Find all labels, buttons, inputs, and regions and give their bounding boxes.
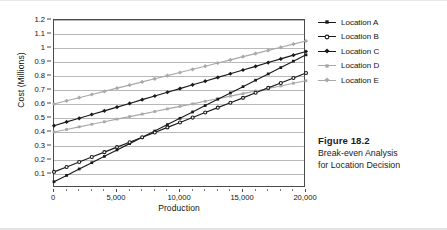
open-circle-marker: [325, 35, 329, 39]
open-circle-marker: [166, 126, 169, 129]
x-tick-label: 5,000: [106, 193, 125, 202]
y-tick-label: 0.5: [34, 113, 45, 122]
filled-square-marker: [166, 108, 169, 111]
x-tick-mark-minor: [229, 189, 230, 191]
legend-marker: [318, 16, 336, 28]
filled-diamond-marker: [115, 86, 119, 90]
filled-diamond-marker: [228, 72, 232, 76]
x-tick-label: 15,000: [230, 193, 253, 202]
filled-square-marker: [254, 79, 257, 82]
legend-label: Location C: [341, 47, 379, 56]
filled-diamond-marker: [241, 55, 245, 59]
open-circle-marker: [254, 91, 257, 94]
x-tick-mark-minor: [204, 189, 205, 191]
y-tick-label: 0.2: [34, 155, 45, 164]
filled-diamond-marker: [153, 94, 157, 98]
x-tick-mark-minor: [292, 189, 293, 191]
x-tick-mark-minor: [66, 189, 67, 191]
filled-square-marker: [78, 125, 81, 128]
filled-diamond-marker: [228, 58, 232, 62]
legend-item-location-a[interactable]: Location A: [318, 15, 442, 30]
legend-label: Location A: [341, 18, 378, 27]
legend-swatch: [318, 16, 336, 28]
y-tick-mark: [47, 173, 51, 174]
open-circle-marker: [90, 156, 93, 159]
y-tick-label: 0.1: [34, 169, 45, 178]
filled-diamond-marker: [128, 83, 132, 87]
legend-marker: [318, 45, 336, 57]
filled-diamond-marker: [52, 124, 56, 128]
open-circle-marker: [153, 131, 156, 134]
caption-title: Figure 18.2: [318, 135, 444, 146]
filled-square-marker: [78, 168, 81, 171]
filled-square-marker: [179, 117, 182, 120]
filled-diamond-marker: [304, 39, 308, 43]
filled-diamond-marker: [52, 102, 56, 106]
x-tick-label: 20,000: [293, 193, 316, 202]
legend-item-location-c[interactable]: Location C: [318, 44, 442, 59]
filled-diamond-marker: [203, 64, 207, 68]
filled-square-marker: [204, 100, 207, 103]
filled-square-marker: [305, 79, 308, 82]
legend-label: Location D: [341, 61, 379, 70]
y-tick-label: 1: [41, 43, 45, 52]
legend-item-location-b[interactable]: Location B: [318, 30, 442, 45]
filled-square-marker: [325, 64, 328, 67]
filled-square-marker: [242, 92, 245, 95]
filled-square-marker: [53, 131, 56, 134]
filled-square-marker: [179, 105, 182, 108]
y-tick-label: 0.4: [34, 127, 45, 136]
y-tick-label: 1.2: [34, 15, 45, 24]
figure-caption: Figure 18.2 Break-even Analysis for Loca…: [318, 135, 444, 171]
y-tick-mark: [47, 103, 51, 104]
filled-diamond-marker: [279, 45, 283, 49]
figure-container: Cost (Millions) 0.10.20.30.40.50.60.70.8…: [0, 0, 447, 230]
x-axis-title: Production: [53, 203, 305, 213]
filled-square-marker: [103, 155, 106, 158]
y-axis-tick-labels: 0.10.20.30.40.50.60.70.80.911.11.2: [8, 19, 51, 187]
filled-diamond-marker: [90, 92, 94, 96]
x-tick-mark-minor: [280, 189, 281, 191]
filled-square-marker: [153, 110, 156, 113]
x-tick-mark-minor: [129, 189, 130, 191]
filled-square-marker: [191, 111, 194, 114]
filled-square-marker: [267, 73, 270, 76]
open-circle-marker: [229, 101, 232, 104]
legend-marker: [318, 31, 336, 43]
open-circle-marker: [141, 136, 144, 139]
filled-diamond-marker: [324, 78, 329, 83]
x-tick-mark-major: [53, 189, 54, 192]
filled-square-marker: [141, 113, 144, 116]
filled-diamond-marker: [178, 87, 182, 91]
filled-square-marker: [292, 82, 295, 85]
filled-square-marker: [229, 95, 232, 98]
y-tick-mark: [47, 145, 51, 146]
legend-item-location-d[interactable]: Location D: [318, 59, 442, 74]
filled-square-marker: [325, 21, 328, 24]
open-circle-marker: [267, 86, 270, 89]
open-circle-marker: [65, 165, 68, 168]
filled-diamond-marker: [77, 116, 81, 120]
filled-square-marker: [116, 118, 119, 121]
filled-square-marker: [65, 128, 68, 131]
filled-square-marker: [242, 85, 245, 88]
y-tick-mark: [47, 89, 51, 90]
caption-line-1: Break-even Analysis: [318, 148, 444, 160]
x-tick-mark-minor: [91, 189, 92, 191]
filled-diamond-marker: [266, 60, 270, 64]
x-tick-mark-major: [305, 189, 306, 192]
filled-square-marker: [90, 123, 93, 126]
x-tick-mark-major: [179, 189, 180, 192]
open-circle-marker: [78, 160, 81, 163]
legend-item-location-e[interactable]: Location E: [318, 73, 442, 88]
open-circle-marker: [128, 141, 131, 144]
filled-diamond-marker: [128, 101, 132, 105]
filled-square-marker: [53, 180, 56, 183]
y-tick-mark: [47, 131, 51, 132]
x-tick-mark-minor: [154, 189, 155, 191]
filled-diamond-marker: [77, 96, 81, 100]
x-tick-mark-minor: [78, 189, 79, 191]
y-tick-mark: [47, 117, 51, 118]
x-tick-mark-minor: [267, 189, 268, 191]
filled-diamond-marker: [279, 57, 283, 61]
